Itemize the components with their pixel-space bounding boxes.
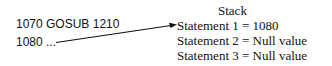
stack-entry-eq: =	[242, 48, 249, 63]
stack-entry-eq: =	[242, 18, 249, 33]
stack-entry-label: Statement 3	[177, 48, 239, 63]
stack-entry-label: Statement 2	[177, 33, 239, 48]
stack-entry-value: Null value	[253, 33, 308, 48]
stack-entry-eq: =	[242, 33, 249, 48]
stack-entry-value: Null value	[253, 48, 308, 63]
stack-entry: Statement 2 = Null value	[177, 33, 307, 48]
stack-entry-value: 1080	[253, 18, 279, 33]
stack-entry-label: Statement 1	[177, 18, 239, 33]
stack-entry: Statement 1 = 1080	[177, 18, 279, 33]
stack-entry: Statement 3 = Null value	[177, 48, 307, 63]
stack-title: Stack	[218, 3, 247, 18]
